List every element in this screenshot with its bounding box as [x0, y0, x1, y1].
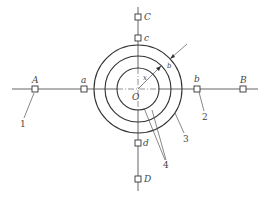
callout-1-label: 1 [20, 119, 26, 129]
point-D-label: D [143, 174, 151, 184]
callout-4-leader-inner [144, 108, 165, 160]
point-a-marker [81, 86, 87, 92]
center-label: O [132, 92, 140, 102]
radius-label: x [143, 74, 147, 82]
point-B-marker [240, 86, 246, 92]
point-b-marker [194, 86, 200, 92]
callout-1-leader [24, 93, 34, 118]
point-B-label: B [239, 75, 247, 85]
point-A-label: A [31, 75, 39, 85]
callout-4-label: 4 [163, 160, 169, 170]
callout-3-label: 3 [183, 134, 189, 144]
point-b-label: b [194, 74, 200, 84]
survey-diagram: x b O A a b B C c d D 1 2 3 4 [0, 0, 272, 199]
callout-4-leader-middle [152, 110, 166, 160]
point-A-marker [32, 86, 38, 92]
thickness-label: b [167, 62, 172, 70]
point-D-marker [135, 176, 141, 182]
point-C-marker [135, 14, 141, 20]
point-C-label: C [144, 12, 151, 22]
point-d-label: d [143, 138, 149, 148]
point-c-marker [135, 35, 141, 41]
callout-2-leader [199, 92, 204, 111]
point-d-marker [135, 140, 141, 146]
callout-2-label: 2 [202, 112, 208, 122]
point-a-label: a [81, 75, 86, 85]
point-c-label: c [144, 33, 149, 43]
callout-3-leader [175, 113, 184, 133]
